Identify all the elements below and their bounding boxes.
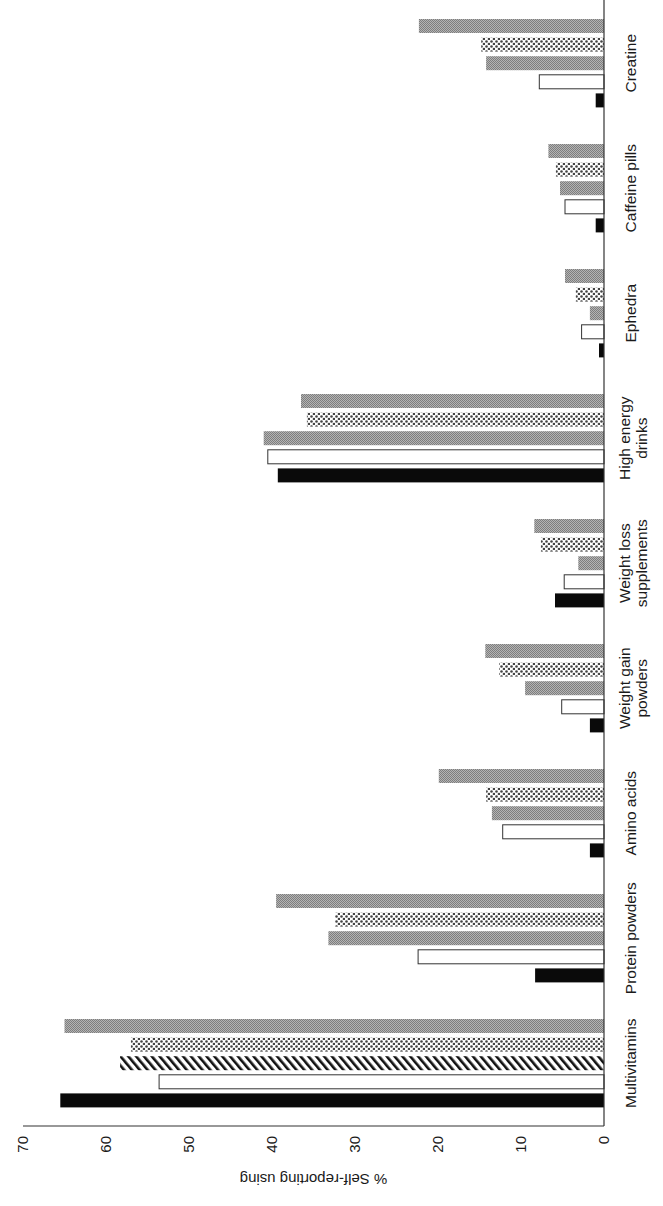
bar	[578, 556, 604, 570]
bar	[335, 913, 604, 927]
bar	[328, 931, 604, 945]
bar	[485, 644, 604, 658]
bar	[419, 19, 604, 33]
tick-label: 60	[97, 1136, 114, 1153]
tick-label: 20	[429, 1136, 446, 1153]
bar	[65, 1019, 605, 1033]
bar	[159, 1075, 604, 1089]
tick-label: 0	[595, 1136, 612, 1144]
category-label: High energydrinks	[616, 396, 650, 480]
tick-label: 50	[180, 1136, 197, 1153]
bar	[560, 181, 604, 195]
bar	[599, 343, 604, 357]
bar	[556, 163, 604, 177]
category-label: Creatine	[622, 34, 639, 93]
bars-layer	[60, 19, 604, 1107]
tick-label: 70	[14, 1136, 31, 1153]
bar	[503, 825, 604, 839]
bar	[481, 38, 604, 52]
tick-label: 10	[512, 1136, 529, 1153]
category-label: Amino acids	[622, 771, 639, 856]
bar	[486, 788, 604, 802]
labels-layer: MultivitaminsProtein powdersAmino acidsW…	[14, 34, 650, 1188]
category-label: Caffeine pills	[622, 144, 639, 233]
bar	[60, 1093, 604, 1107]
bar	[486, 56, 604, 70]
bar	[576, 288, 604, 302]
category-label: Multivitamins	[622, 1018, 639, 1108]
bar	[548, 144, 604, 158]
bar	[565, 269, 604, 283]
bar	[264, 431, 604, 445]
bar	[120, 1056, 604, 1070]
category-label: Weight gainpowders	[616, 647, 650, 729]
bar	[590, 306, 604, 320]
bar	[539, 75, 604, 89]
bar-chart: MultivitaminsProtein powdersAmino acidsW…	[0, 0, 663, 1206]
value-axis-title: % Self-reporting using	[240, 1171, 388, 1188]
bar	[418, 950, 604, 964]
bar	[525, 681, 604, 695]
bar	[439, 769, 604, 783]
bar	[492, 806, 604, 820]
category-label: Ephedra	[622, 284, 639, 343]
bar	[535, 968, 604, 982]
bar	[499, 663, 604, 677]
category-label: Protein powders	[622, 882, 639, 994]
category-label: Weight losssupplements	[616, 519, 650, 607]
bar	[541, 538, 604, 552]
tick-label: 40	[263, 1136, 280, 1153]
bar	[596, 93, 604, 107]
bar	[565, 200, 604, 214]
bar	[590, 843, 604, 857]
bar	[276, 894, 604, 908]
bar	[278, 468, 604, 482]
bar	[555, 593, 604, 607]
bar	[301, 394, 604, 408]
bar	[534, 519, 604, 533]
bar	[564, 575, 604, 589]
bar	[268, 450, 604, 464]
bar	[596, 218, 604, 232]
bar	[590, 718, 604, 732]
tick-label: 30	[346, 1136, 363, 1153]
bar	[131, 1038, 604, 1052]
bar	[582, 325, 604, 339]
bar	[307, 413, 604, 427]
bar	[562, 700, 604, 714]
